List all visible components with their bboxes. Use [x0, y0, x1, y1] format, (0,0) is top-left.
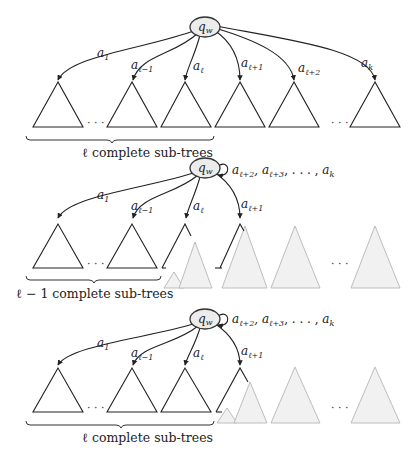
ghost-subtree: [217, 408, 237, 423]
ghost-subtree: [271, 367, 320, 423]
ellipsis: · · ·: [331, 402, 348, 415]
subtree: [33, 368, 83, 412]
subtree: [33, 82, 83, 127]
edge-label: aℓ+1: [241, 344, 263, 360]
caption: ℓ − 1 complete sub-trees: [16, 286, 173, 301]
ellipsis: · · ·: [87, 402, 104, 415]
underbrace: [26, 276, 161, 283]
ellipsis: · · ·: [87, 258, 104, 271]
diagram-full-tree: qw a1 aℓ−1 aℓ aℓ+1 aℓ+2 ak · · · · · · ℓ…: [26, 17, 400, 160]
edge-al+1: [214, 172, 240, 218]
edge-label: aℓ−1: [131, 199, 153, 215]
edge-label: a1: [97, 336, 109, 352]
ghost-subtree: [351, 367, 400, 423]
edge-al+1: [214, 30, 240, 80]
subtree: [107, 224, 157, 268]
edge-label: aℓ+2: [298, 61, 320, 77]
underbrace: [26, 421, 214, 428]
edge-label: aℓ: [193, 199, 204, 215]
edge-al+1: [214, 323, 240, 365]
ghost-subtree: [179, 242, 212, 288]
edge-label: ak: [361, 56, 373, 72]
subtree: [215, 82, 265, 127]
caption: ℓ complete sub-trees: [82, 145, 213, 160]
subtree: [107, 82, 157, 127]
edge-label: aℓ: [193, 346, 204, 362]
edge-al+2: [215, 28, 294, 80]
edge-label: a1: [97, 188, 109, 204]
edge-label: aℓ: [193, 59, 204, 75]
edge-label: aℓ−1: [131, 346, 153, 362]
diagram-partial-tree-1: qw aℓ+2, aℓ+3, . . . , ak a1 aℓ−1 aℓ aℓ+…: [16, 158, 400, 301]
tree-diagrams: qw a1 aℓ−1 aℓ aℓ+1 aℓ+2 ak · · · · · · ℓ…: [0, 0, 420, 460]
partial-subtree: [162, 224, 191, 268]
edge-a1: [58, 30, 196, 80]
caption: ℓ complete sub-trees: [82, 430, 213, 445]
ghost-subtree: [234, 382, 267, 423]
loop-label: aℓ+2, aℓ+3, . . . , ak: [232, 163, 335, 179]
subtree: [161, 368, 211, 412]
edge-a1: [58, 172, 196, 218]
ghost-subtree: [271, 226, 320, 288]
underbrace: [26, 136, 214, 143]
ghost-subtree: [351, 226, 400, 288]
loop-label: aℓ+2, aℓ+3, . . . , ak: [232, 312, 335, 328]
subtree: [33, 224, 83, 268]
subtree: [269, 82, 319, 127]
diagram-partial-tree-2: qw aℓ+2, aℓ+3, . . . , ak a1 aℓ−1 aℓ aℓ+…: [26, 309, 400, 445]
edge-label: aℓ+1: [241, 56, 263, 72]
subtree: [350, 82, 400, 127]
edge-label: aℓ+1: [241, 197, 263, 213]
edge-label: a1: [97, 46, 109, 62]
ellipsis: · · ·: [331, 258, 348, 271]
ellipsis: · · ·: [87, 117, 104, 130]
ghost-subtree: [222, 226, 267, 288]
subtree: [107, 368, 157, 412]
ellipsis: · · ·: [331, 117, 348, 130]
subtree: [161, 82, 211, 127]
edge-a1: [58, 323, 196, 365]
